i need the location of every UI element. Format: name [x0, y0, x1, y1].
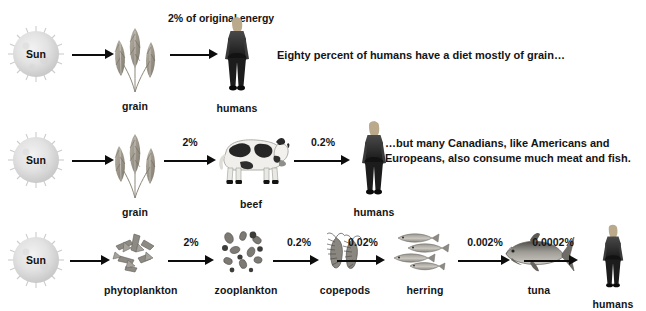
- row-grain-chain: Sun: [0, 0, 646, 110]
- arrow-label-grain-to-beef: 2%: [166, 136, 214, 149]
- arrow-copepods-to-herring: [337, 254, 385, 268]
- node-humans: humans: [584, 222, 642, 310]
- human-figure-icon: [584, 222, 642, 292]
- arrow-label-copepods-to-herring: 0.02%: [337, 236, 389, 249]
- herring-school-icon: [388, 228, 462, 278]
- node-grain: grain: [104, 22, 166, 112]
- caption-beef-chain: …but many Canadians, like Americans and …: [385, 136, 633, 165]
- arrow-grain-to-beef: [164, 154, 216, 168]
- node-label-phytoplankton: phytoplankton: [104, 284, 170, 296]
- sun-icon: Sun: [8, 132, 64, 188]
- row-marine-chain: Sun: [0, 222, 646, 311]
- node-phytoplankton: phytoplankton: [104, 230, 170, 296]
- node-label-herring: herring: [388, 284, 462, 296]
- arrow-label-beef-to-humans: 0.2%: [297, 136, 349, 149]
- wheat-grain-icon: [104, 22, 166, 94]
- node-herring: herring: [388, 228, 462, 296]
- node-label-sun: Sun: [8, 26, 64, 82]
- sun-icon: Sun: [8, 26, 64, 82]
- wheat-grain-icon: [104, 128, 166, 200]
- node-label-grain: grain: [104, 206, 166, 218]
- caption-grain-chain: Eighty percent of humans have a diet mos…: [277, 48, 627, 63]
- arrow-label-phyto-to-zoo: 2%: [172, 236, 210, 249]
- arrow-tuna-to-humans: [524, 254, 578, 268]
- arrow-phytoplankton-to-zooplankton: [168, 254, 214, 268]
- node-beef: beef: [212, 130, 290, 210]
- node-humans: humans: [345, 118, 403, 218]
- node-sun: Sun: [8, 232, 66, 288]
- node-label-sun: Sun: [8, 232, 64, 288]
- node-humans: humans: [208, 14, 266, 114]
- node-label-grain: grain: [104, 100, 166, 112]
- node-label-zooplankton: zooplankton: [213, 284, 279, 296]
- node-label-beef: beef: [212, 198, 290, 210]
- node-grain: grain: [104, 128, 166, 218]
- node-label-copepods: copepods: [316, 284, 374, 296]
- row-beef-chain: Sun: [0, 112, 646, 216]
- arrow-zooplankton-to-copepods: [273, 254, 319, 268]
- food-chain-diagram: Sun: [0, 0, 646, 311]
- node-zooplankton: zooplankton: [213, 228, 279, 296]
- arrow-label-tuna-to-humans: 0.0002%: [522, 236, 584, 249]
- node-label-humans: humans: [345, 206, 403, 218]
- sun-icon: Sun: [8, 232, 64, 288]
- human-figure-icon: [208, 14, 266, 96]
- node-label-humans: humans: [584, 298, 642, 310]
- zooplankton-icon: [213, 228, 279, 278]
- phytoplankton-icon: [104, 230, 170, 278]
- cow-icon: [212, 130, 290, 192]
- node-label-tuna: tuna: [500, 284, 578, 296]
- node-label-sun: Sun: [8, 132, 64, 188]
- node-sun: Sun: [8, 26, 66, 82]
- arrow-beef-to-humans: [294, 154, 350, 168]
- node-sun: Sun: [8, 132, 66, 188]
